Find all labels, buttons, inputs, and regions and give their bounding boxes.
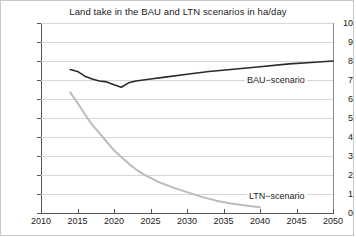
series-lines xyxy=(41,23,333,213)
ltn-label: LTN−scenario xyxy=(247,191,307,201)
x-axis-line xyxy=(41,213,334,214)
x-tick-label: 2015 xyxy=(58,216,98,226)
x-tick-label: 2035 xyxy=(204,216,244,226)
chart-container: Land take in the BAU and LTN scenarios i… xyxy=(0,0,354,236)
y-tick-mark xyxy=(37,213,41,214)
ltn-series-line xyxy=(70,92,260,207)
x-tick-mark xyxy=(333,209,334,213)
x-tick-label: 2020 xyxy=(94,216,134,226)
bau-label: BAU−scenario xyxy=(245,75,307,85)
x-tick-label: 2030 xyxy=(167,216,207,226)
plot-area xyxy=(41,23,333,213)
chart-title: Land take in the BAU and LTN scenarios i… xyxy=(1,6,355,17)
x-tick-label: 2010 xyxy=(21,216,61,226)
x-tick-label: 2045 xyxy=(277,216,317,226)
x-tick-label: 2050 xyxy=(313,216,353,226)
x-tick-label: 2040 xyxy=(240,216,280,226)
x-tick-label: 2025 xyxy=(131,216,171,226)
